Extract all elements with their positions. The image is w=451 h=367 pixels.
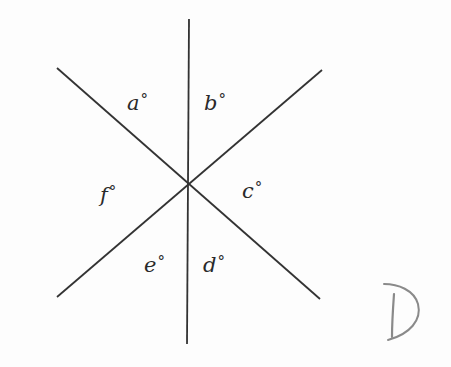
degree-symbol: ° (141, 90, 149, 108)
angle-letter: f (100, 183, 108, 207)
angle-letter: d (203, 253, 216, 277)
angle-letter: e (144, 253, 156, 277)
degree-symbol: ° (218, 90, 226, 108)
handwritten-answer-d: D (380, 280, 424, 344)
angle-label-b: b° (204, 92, 226, 114)
angle-label-e: e° (144, 254, 165, 276)
angle-label-a: a° (127, 92, 148, 114)
angle-letter: c (242, 179, 254, 203)
degree-symbol: ° (109, 182, 117, 200)
degree-symbol: ° (255, 178, 263, 196)
angle-letter: b (204, 91, 217, 115)
angle-letter: a (127, 91, 140, 115)
angle-label-f: f° (100, 184, 116, 206)
degree-symbol: ° (157, 252, 165, 270)
diagram-canvas: a° b° c° d° e° f° D (0, 0, 451, 367)
angle-label-d: d° (203, 254, 225, 276)
angle-label-c: c° (242, 180, 262, 202)
degree-symbol: ° (217, 252, 225, 270)
